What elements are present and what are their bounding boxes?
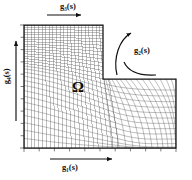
boundary-label-g3: g₃(s) xyxy=(60,2,76,11)
domain-symbol-omega: Ω xyxy=(72,79,84,96)
domain-mesh-svg xyxy=(0,0,192,180)
figure-container: g₃(s) g₂(s) g₁(s) g₄(s) Ω xyxy=(0,0,192,180)
boundary-label-g1: g₁(s) xyxy=(62,163,78,172)
boundary-label-g3-text: g₃(s) xyxy=(60,1,76,11)
boundary-label-g4-text: g₄(s) xyxy=(1,68,11,84)
boundary-label-g4: g₄(s) xyxy=(2,68,11,84)
g2-direction-arrow-lower xyxy=(124,62,156,75)
boundary-label-g2: g₂(s) xyxy=(134,46,150,55)
boundary-label-g2-text: g₂(s) xyxy=(134,45,150,55)
mesh-upper-arm xyxy=(24,25,118,148)
boundary-label-g1-text: g₁(s) xyxy=(62,162,78,172)
